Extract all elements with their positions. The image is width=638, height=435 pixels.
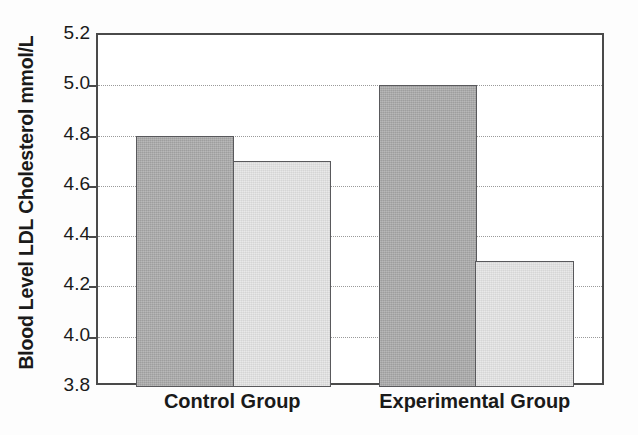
x-label-control-group: Control Group <box>164 390 301 413</box>
y-tick-label-4.4: 4.4 <box>64 223 90 245</box>
y-tick-label-4.8: 4.8 <box>64 123 90 145</box>
y-tick-mark-4.6 <box>89 186 98 188</box>
bar-control-group-series-2 <box>233 161 331 387</box>
y-tick-mark-4.0 <box>89 337 98 339</box>
y-tick-mark-4.2 <box>89 286 98 288</box>
bar-experimental-group-series-1 <box>379 85 477 387</box>
bar-experimental-group-series-2 <box>475 261 573 387</box>
y-tick-label-5.0: 5.0 <box>64 72 90 94</box>
bar-control-group-series-1 <box>136 136 234 387</box>
y-axis-title: Blood Level LDL Cholesterol mmol/L <box>6 0 46 420</box>
y-tick-label-4.2: 4.2 <box>64 273 90 295</box>
y-tick-mark-5.0 <box>89 85 98 87</box>
bar-group-container <box>98 35 602 383</box>
y-tick-mark-4.8 <box>89 136 98 138</box>
y-tick-label-4.6: 4.6 <box>64 173 90 195</box>
x-axis-category-labels: Control GroupExperimental Group <box>96 390 604 424</box>
y-axis-tick-labels: 3.84.04.24.44.64.85.05.2 <box>50 33 90 385</box>
y-tick-label-4.0: 4.0 <box>64 324 90 346</box>
x-label-experimental-group: Experimental Group <box>379 390 570 413</box>
y-tick-mark-4.4 <box>89 236 98 238</box>
y-tick-label-5.2: 5.2 <box>64 22 90 44</box>
chart-figure: Blood Level LDL Cholesterol mmol/L 3.84.… <box>0 0 638 435</box>
y-tick-label-3.8: 3.8 <box>64 374 90 396</box>
plot-area <box>96 33 604 385</box>
